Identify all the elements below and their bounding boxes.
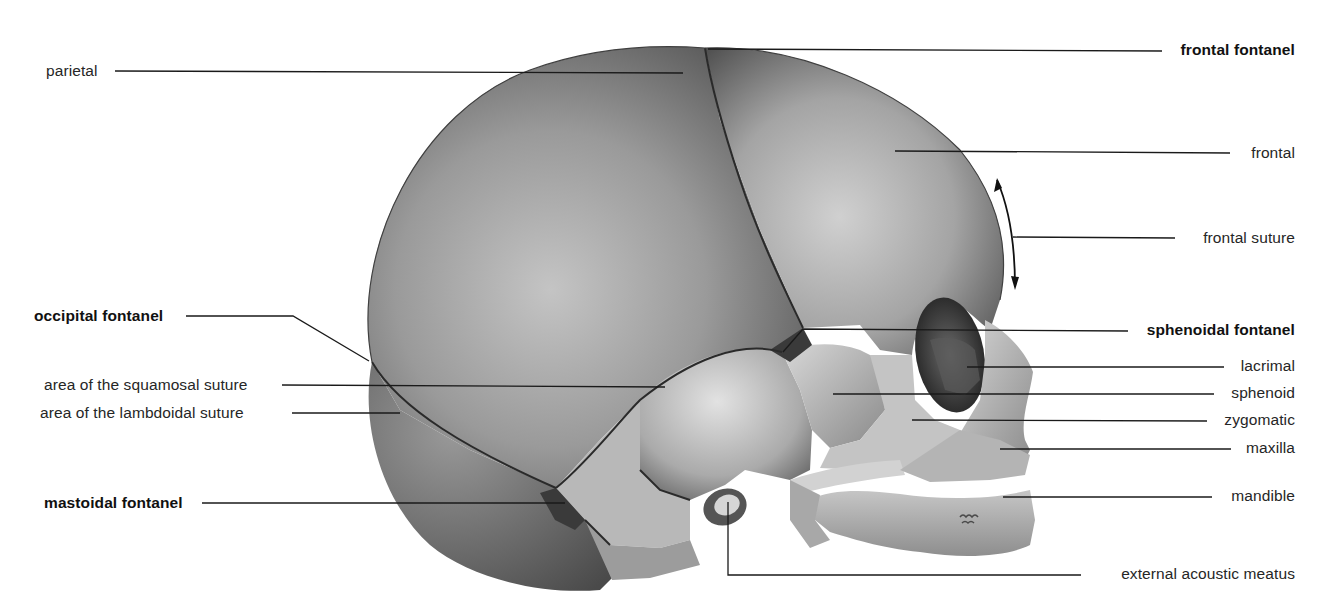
label-lambdoidal-suture: area of the lambdoidal suture	[40, 404, 244, 422]
arrowhead-down-icon	[1011, 276, 1019, 290]
label-lacrimal: lacrimal	[1241, 357, 1295, 375]
skull-illustration	[0, 0, 1335, 611]
label-squamosal-suture: area of the squamosal suture	[44, 376, 248, 394]
label-frontal-suture: frontal suture	[1203, 229, 1295, 247]
leader-frontal-suture	[1013, 237, 1175, 238]
label-maxilla: maxilla	[1246, 439, 1295, 457]
skull-diagram: parietal occipital fontanel area of the …	[0, 0, 1335, 611]
label-frontal-fontanel: frontal fontanel	[1181, 41, 1295, 59]
label-mandible: mandible	[1231, 487, 1295, 505]
leader-occipital-fontanel	[186, 316, 369, 361]
leader-zygomatic	[912, 420, 1207, 421]
label-mastoidal-fontanel: mastoidal fontanel	[44, 494, 183, 512]
leader-frontal-fontanel	[708, 49, 1162, 51]
label-parietal: parietal	[46, 62, 98, 80]
label-occipital-fontanel: occipital fontanel	[34, 307, 163, 325]
label-sphenoid: sphenoid	[1231, 384, 1295, 402]
label-external-acoustic-meatus: external acoustic meatus	[1121, 565, 1295, 583]
label-frontal: frontal	[1251, 144, 1295, 162]
label-sphenoidal-fontanel: sphenoidal fontanel	[1147, 321, 1295, 339]
label-zygomatic: zygomatic	[1224, 411, 1295, 429]
mandible-bone	[810, 490, 1035, 556]
